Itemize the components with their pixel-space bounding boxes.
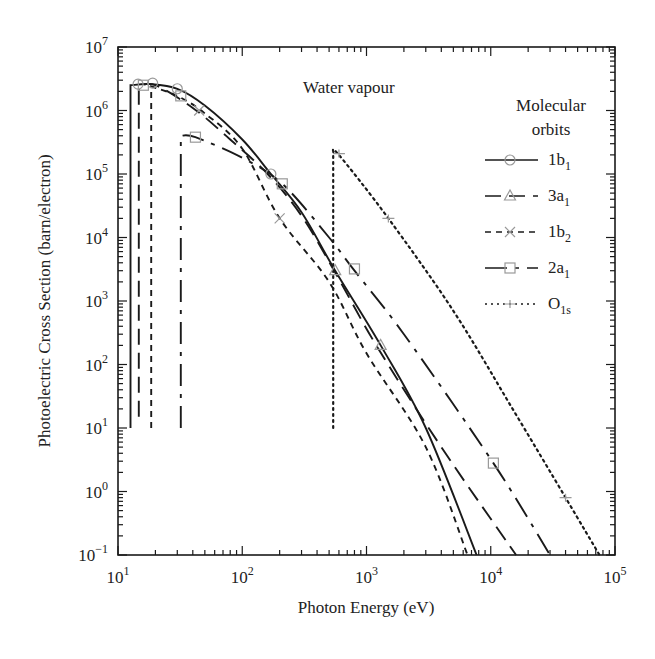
legend-label: 2a1 xyxy=(548,258,570,281)
legend-label: O1s xyxy=(548,294,571,317)
y-tick-label: 103 xyxy=(85,288,108,311)
marker-plus xyxy=(504,300,516,308)
chart-canvas: Water vapour Photon Energy (eV) Photoele… xyxy=(0,0,655,659)
y-tick-labels: 10−1100101102103104105106107 xyxy=(78,34,108,565)
y-tick-label: 101 xyxy=(85,415,108,438)
marker-x xyxy=(275,213,285,223)
y-tick-label: 106 xyxy=(85,98,108,121)
x-tick-label: 102 xyxy=(231,564,254,587)
x-tick-label: 101 xyxy=(107,564,130,587)
y-tick-label: 10−1 xyxy=(78,542,108,565)
legend-entry-1b2: 1b2 xyxy=(485,222,571,245)
y-tick-label: 104 xyxy=(85,225,108,248)
x-tick-labels: 101102103104105 xyxy=(107,564,627,587)
legend-label: 1b2 xyxy=(548,222,571,245)
series-group xyxy=(131,84,600,555)
y-tick-label: 105 xyxy=(85,161,108,184)
legend-entry-1b1: 1b1 xyxy=(485,150,571,173)
legend-label: 3a1 xyxy=(548,186,570,209)
legend-entry-3a1: 3a1 xyxy=(485,186,570,209)
legend-entry-2a1: 2a1 xyxy=(485,258,570,281)
marker-triangle xyxy=(505,190,516,200)
series-1b2 xyxy=(151,86,467,555)
legend-label: 1b1 xyxy=(548,150,571,173)
chart-title: Water vapour xyxy=(303,78,395,97)
legend-title-line1: Molecular xyxy=(516,96,586,115)
series-3a1 xyxy=(139,84,516,555)
legend: Molecular orbits 1b13a11b22a1O1s xyxy=(485,96,586,317)
x-tick-label: 103 xyxy=(355,564,378,587)
markers-group xyxy=(133,78,572,502)
legend-entry-O1s: O1s xyxy=(485,294,571,317)
legend-title-line2: orbits xyxy=(532,120,571,139)
y-axis-title: Photoelectric Cross Section (barn/electr… xyxy=(35,154,54,447)
legend-entries: 1b13a11b22a1O1s xyxy=(485,150,571,317)
series-O1s xyxy=(333,149,600,555)
y-tick-label: 100 xyxy=(85,479,108,502)
marker-plus xyxy=(382,214,394,222)
series-2a1 xyxy=(181,135,550,555)
x-tick-label: 105 xyxy=(604,564,627,587)
marker-x xyxy=(505,227,515,237)
series-1b1 xyxy=(131,84,477,555)
y-tick-label: 107 xyxy=(85,34,108,57)
x-axis-title: Photon Energy (eV) xyxy=(298,598,435,617)
x-tick-label: 104 xyxy=(479,564,502,587)
y-tick-label: 102 xyxy=(85,352,108,375)
marker-plus xyxy=(560,494,572,502)
